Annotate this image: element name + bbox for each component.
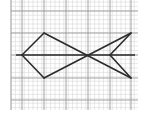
- fish-segment: [110, 33, 131, 55]
- grid-diagram: [0, 0, 148, 115]
- fish-segment: [110, 55, 131, 78]
